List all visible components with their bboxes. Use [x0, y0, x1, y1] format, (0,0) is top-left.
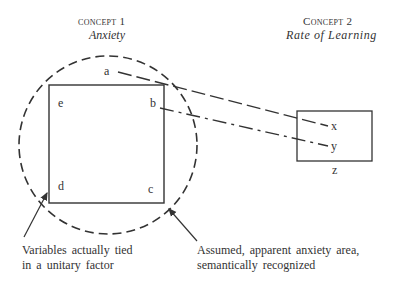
label-z: z	[332, 164, 337, 176]
anxiety-area-note-line2: semantically recognized	[197, 258, 359, 273]
label-c: c	[148, 183, 153, 195]
concept1-heading: concept 1	[78, 16, 125, 27]
label-e: e	[58, 97, 63, 109]
unitary-factor-note-line1: Variables actually tied	[22, 243, 133, 258]
arrow-unitary-factor	[24, 193, 47, 237]
label-y: y	[331, 140, 337, 152]
unitary-factor-note: Variables actually tied in a unitary fac…	[22, 243, 133, 273]
anxiety-area-note: Assumed, apparent anxiety area, semantic…	[197, 243, 359, 273]
anxiety-area-note-line1: Assumed, apparent anxiety area,	[197, 243, 359, 258]
concept1-name: Anxiety	[89, 29, 125, 41]
unitary-factor-square	[49, 85, 164, 203]
label-b: b	[150, 97, 156, 109]
link-b-y	[160, 108, 328, 146]
label-a: a	[104, 65, 109, 77]
label-d: d	[58, 180, 64, 192]
label-x: x	[331, 120, 337, 132]
anxiety-area-circle	[19, 56, 197, 234]
concept2-heading: Concept 2	[303, 16, 352, 27]
arrow-anxiety-area	[169, 209, 197, 241]
concept2-name: Rate of Learning	[286, 29, 377, 41]
unitary-factor-note-line2: in a unitary factor	[22, 258, 133, 273]
